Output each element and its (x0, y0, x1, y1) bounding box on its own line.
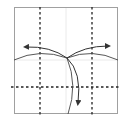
origami-diagram (0, 0, 121, 122)
flap-edge-bottom (67, 58, 73, 114)
